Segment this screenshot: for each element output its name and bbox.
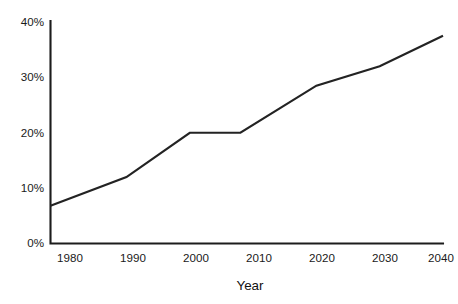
x-tick-label-1980: 1980 bbox=[57, 251, 83, 264]
x-tick-label-2000: 2000 bbox=[183, 251, 209, 264]
chart-canvas: 40% 30% 20% 10% 0% 1980 1990 2000 2010 2… bbox=[0, 0, 458, 304]
x-tick-label-2030: 2030 bbox=[372, 251, 398, 264]
y-tick-label-0: 0% bbox=[27, 236, 44, 249]
y-tick-label-30: 30% bbox=[21, 70, 44, 83]
x-axis-title: Year bbox=[236, 278, 264, 293]
line-chart: 40% 30% 20% 10% 0% 1980 1990 2000 2010 2… bbox=[0, 0, 458, 304]
x-tick-label-2020: 2020 bbox=[309, 251, 335, 264]
x-tick-label-2040: 2040 bbox=[428, 251, 454, 264]
x-tick-label-1990: 1990 bbox=[120, 251, 146, 264]
axis-lines bbox=[51, 21, 444, 244]
x-tick-label-2010: 2010 bbox=[246, 251, 272, 264]
data-series-line bbox=[51, 36, 444, 206]
y-tick-label-10: 10% bbox=[21, 181, 44, 194]
y-axis-tick-labels: 40% 30% 20% 10% 0% bbox=[21, 15, 44, 249]
y-tick-label-20: 20% bbox=[21, 126, 44, 139]
y-tick-label-40: 40% bbox=[21, 15, 44, 28]
x-axis-tick-labels: 1980 1990 2000 2010 2020 2030 2040 bbox=[57, 251, 454, 264]
